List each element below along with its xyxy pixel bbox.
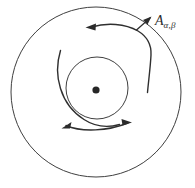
- arrow-bottom-left-head-icon: [62, 122, 72, 129]
- arrow-bottom-right-head-icon: [122, 119, 133, 126]
- figure-container: Aα,β: [0, 0, 195, 188]
- region-label-base: A: [155, 13, 164, 28]
- region-label-A-alpha-beta: Aα,β: [155, 14, 176, 30]
- spiral-arc: [58, 51, 120, 127]
- region-label-subscript: α,β: [164, 20, 176, 30]
- arrow-upper-left-head-icon: [86, 24, 97, 31]
- outer-arc-right: [92, 24, 152, 92]
- center-dot: [92, 86, 99, 93]
